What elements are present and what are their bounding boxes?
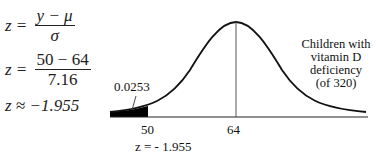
curve-label: Children with vitamin D deficiency (of 3… — [296, 38, 376, 90]
x-tick-50: 50 — [141, 122, 154, 138]
curve-label-line: (of 320) — [296, 77, 376, 90]
x-tick-64: 64 — [227, 122, 240, 138]
tail-area-label: 0.0253 — [114, 79, 150, 95]
z-score-label: z = - 1.955 — [135, 139, 191, 155]
